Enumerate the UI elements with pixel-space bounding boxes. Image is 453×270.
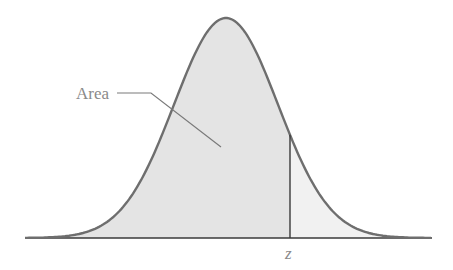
normal-curve-diagram: Area z — [0, 0, 453, 270]
shaded-area-left-of-z — [25, 18, 432, 238]
z-label: z — [284, 244, 292, 263]
area-label: Area — [76, 84, 109, 103]
